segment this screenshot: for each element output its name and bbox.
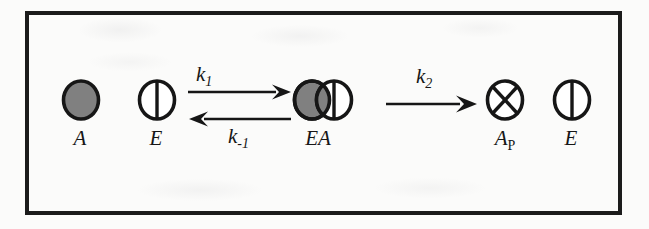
species-label-a: A xyxy=(58,128,102,149)
figure-canvas: A E k1 k-1 xyxy=(0,0,649,229)
forward-arrow-icon xyxy=(384,62,484,132)
species-label-ap: AP xyxy=(483,128,527,153)
species-enzyme-e-right: E xyxy=(551,78,595,150)
species-label-e-left: E xyxy=(134,128,178,149)
species-label-ea-text: EA xyxy=(305,126,331,150)
species-label-e-right: E xyxy=(549,128,593,149)
species-label-ap-sub: P xyxy=(508,138,516,153)
species-label-e-right-text: E xyxy=(565,126,578,150)
species-label-a-text: A xyxy=(74,126,87,150)
overlapping-gray-circle-and-split-circle-icon xyxy=(288,78,366,124)
reaction-2-arrows: k2 xyxy=(384,62,484,132)
species-product-ap: AP xyxy=(484,78,528,150)
rate-label-k-minus-1: k-1 xyxy=(228,126,249,151)
species-enzyme-e-left: E xyxy=(136,78,180,150)
filled-gray-circle-icon xyxy=(60,78,104,124)
species-label-ea: EA xyxy=(279,128,357,149)
circle-with-vertical-line-icon xyxy=(551,78,595,124)
circle-with-x-cross-icon xyxy=(484,78,528,124)
species-label-e-left-text: E xyxy=(150,126,163,150)
rate-label-k-minus-1-sub: -1 xyxy=(237,136,249,151)
rate-label-k-minus-1-base: k xyxy=(228,124,237,148)
species-substrate-a: A xyxy=(60,78,104,150)
species-complex-ea: EA xyxy=(288,78,366,150)
circle-with-vertical-line-icon xyxy=(136,78,180,124)
species-label-ap-base: A xyxy=(495,126,508,150)
